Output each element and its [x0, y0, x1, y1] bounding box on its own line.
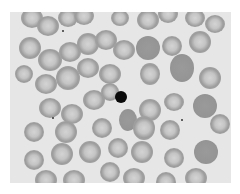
red-blood-cell [210, 114, 230, 134]
red-blood-cell [24, 122, 44, 142]
red-blood-cell [205, 15, 225, 33]
red-blood-cell [37, 16, 59, 36]
red-blood-cell [133, 116, 155, 140]
red-blood-cell [158, 12, 178, 23]
red-blood-cell [74, 12, 94, 25]
cell-nucleus [115, 91, 127, 103]
red-blood-cell [39, 98, 61, 118]
red-blood-cell [77, 58, 99, 78]
red-blood-cell [113, 40, 135, 60]
red-blood-cell [55, 121, 77, 143]
red-blood-cell [193, 94, 217, 118]
red-blood-cell [199, 67, 221, 89]
red-blood-cell [189, 31, 211, 53]
red-blood-cell [194, 140, 218, 164]
red-blood-cell [164, 148, 184, 168]
blood-smear-micrograph [10, 12, 231, 183]
red-blood-cell [111, 12, 129, 26]
red-blood-cell [92, 118, 112, 138]
red-blood-cell [35, 170, 57, 183]
debris-speck [181, 119, 183, 121]
debris-speck [52, 117, 54, 119]
red-blood-cell [51, 143, 73, 165]
red-blood-cell [100, 162, 120, 182]
red-blood-cell [63, 170, 85, 183]
red-blood-cell [160, 120, 180, 140]
red-blood-cell [99, 64, 121, 84]
red-blood-cell [156, 172, 176, 183]
debris-speck [62, 30, 64, 32]
red-blood-cell [108, 138, 128, 158]
red-blood-cell [185, 168, 207, 183]
red-blood-cell [162, 36, 182, 56]
red-blood-cell [170, 54, 194, 82]
red-blood-cell [185, 12, 205, 27]
red-blood-cell [35, 74, 57, 94]
red-blood-cell [79, 141, 101, 163]
red-blood-cell [136, 36, 160, 60]
red-blood-cell [123, 168, 145, 183]
red-blood-cell [164, 93, 184, 111]
red-blood-cell [131, 141, 153, 163]
red-blood-cell [24, 150, 44, 170]
red-blood-cell [140, 63, 160, 85]
red-blood-cell [137, 12, 159, 30]
red-blood-cell [15, 65, 33, 83]
